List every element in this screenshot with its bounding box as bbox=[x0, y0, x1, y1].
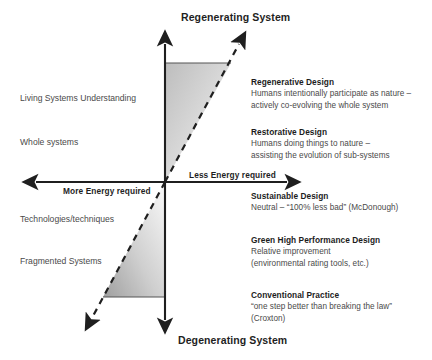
stage-title-green-high-performance-design: Green High Performance Design bbox=[251, 234, 432, 246]
stage-title-conventional-practice: Conventional Practice bbox=[251, 289, 432, 301]
stage-body-line: Relative improvement bbox=[251, 246, 432, 258]
stage-block-restorative-design: Restorative Design Humans doing things t… bbox=[251, 126, 432, 161]
stage-body-line: Neutral – “100% less bad” (McDonough) bbox=[251, 202, 432, 214]
axis-label-more-energy-required: More Energy required bbox=[63, 186, 151, 197]
axis-title-degenerating-system: Degenerating System bbox=[178, 334, 287, 348]
stage-body-restorative-design: Humans doing things to nature – assistin… bbox=[251, 138, 432, 161]
axis-title-regenerating-system: Regenerating System bbox=[181, 11, 290, 25]
stage-block-conventional-practice: Conventional Practice “one step better t… bbox=[251, 289, 432, 324]
stage-body-line: actively co-evolving the whole system bbox=[251, 100, 432, 112]
stage-body-line: Humans doing things to nature – bbox=[251, 138, 432, 150]
left-label-technologies-techniques: Technologies/techniques bbox=[20, 214, 114, 225]
regenerative-design-framework-diagram: Regenerating System Degenerating System … bbox=[0, 0, 432, 360]
left-label-whole-systems: Whole systems bbox=[20, 137, 78, 148]
left-label-fragmented-systems: Fragmented Systems bbox=[20, 256, 102, 267]
stage-title-regenerative-design: Regenerative Design bbox=[251, 76, 432, 88]
stage-title-sustainable-design: Sustainable Design bbox=[251, 190, 432, 202]
stage-block-regenerative-design: Regenerative Design Humans intentionally… bbox=[251, 76, 432, 111]
stage-body-sustainable-design: Neutral – “100% less bad” (McDonough) bbox=[251, 202, 432, 214]
stage-block-green-high-performance-design: Green High Performance Design Relative i… bbox=[251, 234, 432, 269]
axis-label-less-energy-required: Less Energy required bbox=[189, 170, 276, 181]
stage-body-regenerative-design: Humans intentionally participate as natu… bbox=[251, 88, 432, 111]
stage-body-line: (Croxton) bbox=[251, 313, 432, 325]
left-label-living-systems-understanding: Living Systems Understanding bbox=[20, 93, 136, 104]
stage-body-line: “one step better than breaking the law” bbox=[251, 301, 432, 313]
stage-title-restorative-design: Restorative Design bbox=[251, 126, 432, 138]
stage-body-green-high-performance-design: Relative improvement (environmental rati… bbox=[251, 246, 432, 269]
stage-body-line: Humans intentionally participate as natu… bbox=[251, 88, 432, 100]
stage-block-sustainable-design: Sustainable Design Neutral – “100% less … bbox=[251, 190, 432, 214]
stage-body-line: (environmental rating tools, etc.) bbox=[251, 258, 432, 270]
stage-body-line: assisting the evolution of sub-systems bbox=[251, 150, 432, 162]
upper-gradient-wedge bbox=[165, 63, 231, 182]
stage-body-conventional-practice: “one step better than breaking the law” … bbox=[251, 301, 432, 324]
